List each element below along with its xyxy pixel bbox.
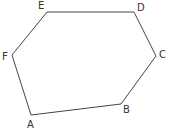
vertex-label-f: F [2, 51, 8, 62]
hexagon-shape [12, 12, 156, 115]
vertex-label-e: E [38, 0, 44, 11]
hexagon-diagram: A B C D E F [0, 0, 169, 131]
vertex-label-d: D [137, 2, 145, 13]
vertex-label-c: C [159, 49, 166, 60]
vertex-label-b: B [123, 104, 130, 115]
vertex-label-a: A [27, 119, 34, 130]
